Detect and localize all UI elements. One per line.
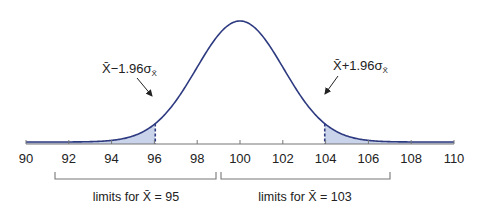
x-tick-label: 104 bbox=[315, 151, 337, 166]
x-tick-label: 100 bbox=[229, 151, 251, 166]
annot-left-main: X̄−1.96σ bbox=[102, 61, 152, 76]
annot-right-main: X̄+1.96σ bbox=[333, 58, 383, 73]
x-tick-label: 94 bbox=[104, 151, 118, 166]
annot-right-sub: X̄ bbox=[383, 66, 389, 75]
normal-curve bbox=[26, 21, 454, 142]
arrow-left bbox=[137, 78, 152, 96]
arrow-right bbox=[325, 76, 338, 94]
x-tick-label: 98 bbox=[190, 151, 204, 166]
x-tick-label: 108 bbox=[400, 151, 422, 166]
x-tick-label: 96 bbox=[147, 151, 161, 166]
svg-text:X̄+1.96σX̄: X̄+1.96σX̄ bbox=[333, 58, 389, 75]
x-tick-label: 92 bbox=[62, 151, 76, 166]
annot-left-sub: X̄ bbox=[152, 69, 158, 78]
x-tick-label: 90 bbox=[19, 151, 33, 166]
x-tick-label: 102 bbox=[272, 151, 294, 166]
lower-limit-annotation: X̄−1.96σX̄ bbox=[102, 61, 158, 96]
sampling-distribution-chart: 9092949698100102104106108110 X̄−1.96σX̄ … bbox=[0, 0, 481, 213]
x-tick-label: 106 bbox=[358, 151, 380, 166]
svg-text:X̄−1.96σX̄: X̄−1.96σX̄ bbox=[102, 61, 158, 78]
bracket-right bbox=[221, 172, 390, 179]
bracket-left-label: limits for X̄ = 95 bbox=[93, 190, 180, 204]
upper-limit-annotation: X̄+1.96σX̄ bbox=[325, 58, 389, 94]
bracket-left bbox=[55, 172, 216, 179]
x-tick-label: 110 bbox=[444, 151, 465, 166]
bracket-right-label: limits for X̄ = 103 bbox=[258, 190, 351, 204]
